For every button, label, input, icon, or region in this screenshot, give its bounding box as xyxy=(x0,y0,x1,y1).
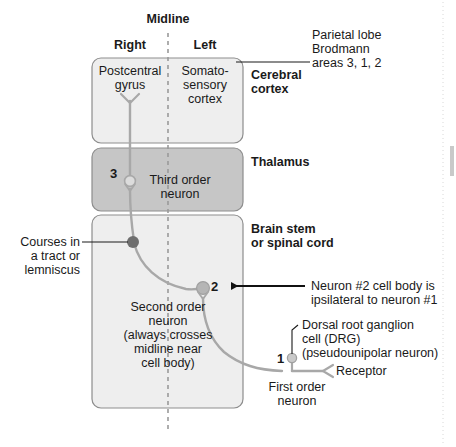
neuron2-ipsilateral-note: Neuron #2 cell body is ipsilateral to ne… xyxy=(311,279,437,307)
drg-callout: Dorsal root ganglion cell (DRG) (pseudou… xyxy=(302,318,438,360)
somatosensory-cortex-label: Somato- sensory cortex xyxy=(181,64,228,106)
right-side-label: Right xyxy=(114,38,146,52)
thalamus-label: Thalamus xyxy=(251,155,309,169)
first-order-neuron-number: 1 xyxy=(277,352,284,367)
left-side-label: Left xyxy=(194,38,217,52)
postcentral-gyrus-label: Postcentral gyrus xyxy=(99,64,162,92)
midline-label: Midline xyxy=(146,12,189,26)
first-order-neuron-label: First order neuron xyxy=(269,380,326,408)
second-order-neuron-number: 2 xyxy=(211,280,218,295)
tract-lemniscus-cell-marker xyxy=(127,236,139,248)
leader-drg-callout xyxy=(292,325,298,354)
scan-artifact-dotted-rule xyxy=(443,2,454,445)
receptor-icon xyxy=(323,365,333,377)
cerebral-cortex-label: Cerebral cortex xyxy=(251,68,302,96)
tract-lemniscus-label: Courses in a tract or lemniscus xyxy=(20,235,80,277)
brain-stem-spinal-cord-label: Brain stem or spinal cord xyxy=(251,222,334,250)
receptor-label: Receptor xyxy=(336,364,387,378)
third-order-neuron-number: 3 xyxy=(110,167,117,182)
sensory-pathway-diagram: Midline Right Left Postcentral gyrus Som… xyxy=(0,0,456,447)
parietal-lobe-callout: Parietal lobe Brodmann areas 3, 1, 2 xyxy=(312,28,382,70)
dorsal-root-ganglion-cell-body xyxy=(287,353,296,362)
third-order-neuron-label: Third order neuron xyxy=(149,173,210,201)
second-order-neuron-label: Second order neuron (always crosses midl… xyxy=(124,300,213,370)
